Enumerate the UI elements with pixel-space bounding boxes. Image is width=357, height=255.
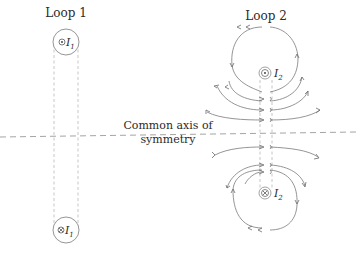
field-line [270,27,298,92]
field-line [270,170,297,230]
current-out-icon [264,72,266,74]
magnetic-loops-diagram: Loop 1 I1 I1 Common axis of symmetry Loo… [0,0,357,255]
field-line [270,165,305,186]
loop-2-top-current: I2 [273,67,283,82]
crossing-marks [270,97,272,174]
field-line [215,147,262,155]
loop-1-title: Loop 1 [45,6,87,20]
field-line [232,27,262,92]
loop-1: Loop 1 I1 I1 [45,6,87,243]
arrowheads [206,25,320,232]
field-line [233,170,262,228]
field-line [270,110,320,120]
field-line [227,165,262,188]
field-line [207,112,262,120]
field-line [270,77,302,101]
loop-2-bottom-wire [259,187,271,199]
field-line [270,147,318,157]
loop-2: Loop 2 [206,9,320,232]
loop-2-top-wire [259,67,271,79]
loop-2-title: Loop 2 [245,9,287,23]
loop-2-bottom-current: I2 [273,187,283,202]
axis-label-line1: Common axis of [123,119,213,132]
axis-label-line2: symmetry [140,133,196,146]
